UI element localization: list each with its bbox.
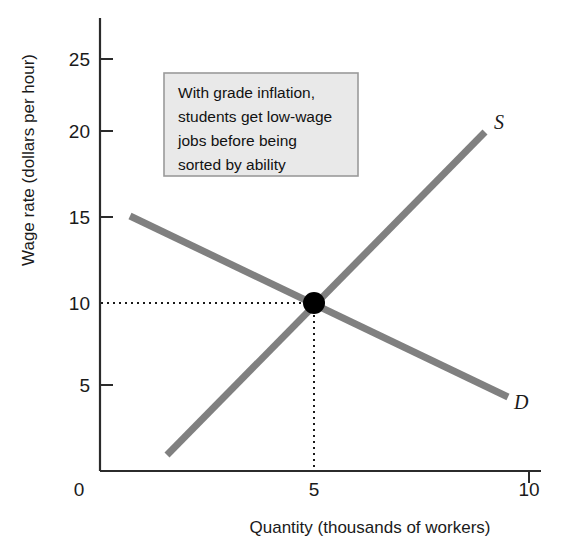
y-tick-label-20: 20 <box>69 121 90 142</box>
annotation-line-4: sorted by ability <box>178 156 286 173</box>
x-tick-label-10: 10 <box>518 479 539 500</box>
grade-inflation-annotation: With grade inflation, students get low-w… <box>164 73 358 176</box>
demand-curve-label: D <box>513 391 529 413</box>
equilibrium-point-marker <box>303 292 325 314</box>
supply-curve <box>167 132 485 455</box>
x-tick-label-0: 0 <box>74 479 85 500</box>
chart-canvas: 25 20 15 10 5 0 5 10 S D With grade infl… <box>0 0 583 545</box>
x-axis-title: Quantity (thousands of workers) <box>250 518 491 537</box>
y-tick-label-25: 25 <box>69 49 90 70</box>
chart-figure: 25 20 15 10 5 0 5 10 S D With grade infl… <box>0 0 583 545</box>
y-tick-label-15: 15 <box>69 207 90 228</box>
annotation-line-2: students get low-wage <box>178 108 332 125</box>
y-axis-title: Wage rate (dollars per hour) <box>19 54 38 266</box>
annotation-line-3: jobs before being <box>177 132 297 149</box>
y-tick-label-5: 5 <box>79 375 90 396</box>
x-tick-label-5: 5 <box>309 479 320 500</box>
y-tick-label-10: 10 <box>69 293 90 314</box>
annotation-line-1: With grade inflation, <box>178 84 315 101</box>
supply-curve-label: S <box>494 111 504 133</box>
